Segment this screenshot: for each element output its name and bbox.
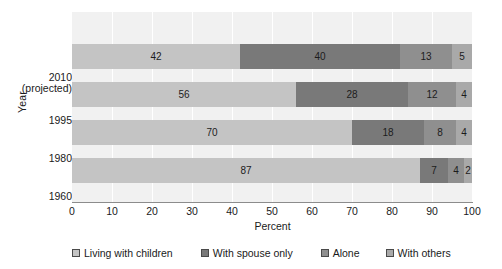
bar-value-label: 2 — [465, 165, 471, 176]
x-axis-tick-label: 30 — [178, 205, 206, 217]
bar-value-label: 70 — [206, 127, 217, 138]
bar-segment: 18 — [352, 120, 424, 145]
bar-value-label: 7 — [431, 165, 437, 176]
y-axis-tick-label: 1995 — [14, 115, 72, 127]
bar-value-label: 4 — [461, 127, 467, 138]
bar-segment: 40 — [240, 44, 400, 69]
bar-value-label: 42 — [150, 51, 161, 62]
bar-segment: 4 — [456, 120, 472, 145]
x-axis-line — [72, 202, 473, 203]
bar-row: 701884 — [72, 120, 472, 145]
x-axis-tick-label: 40 — [218, 205, 246, 217]
bar-value-label: 56 — [178, 89, 189, 100]
x-axis-title: Percent — [72, 220, 473, 232]
legend-swatch-icon — [201, 249, 209, 257]
bar-segment: 8 — [424, 120, 456, 145]
bar-row: 4240135 — [72, 44, 472, 69]
x-axis-tick-labels: 0102030405060708090100 — [72, 205, 473, 219]
bar-value-label: 4 — [453, 165, 459, 176]
bar-value-label: 28 — [346, 89, 357, 100]
x-axis-tick-label: 70 — [338, 205, 366, 217]
bar-segment: 2 — [464, 158, 472, 183]
bar-segment: 12 — [408, 82, 456, 107]
y-axis-tick-label: 2010(projected) — [14, 72, 72, 95]
bar-value-label: 4 — [461, 89, 467, 100]
legend-item[interactable]: Living with children — [72, 247, 173, 259]
legend-swatch-icon — [386, 249, 394, 257]
bar-segment: 70 — [72, 120, 352, 145]
legend-label: With others — [398, 247, 451, 259]
y-tick-main: 1995 — [49, 114, 72, 126]
bar-row: 87742 — [72, 158, 472, 183]
y-tick-main: 1960 — [49, 190, 72, 202]
stacked-bar-chart: Year 2010(projected)199519801960 4240135… — [0, 0, 502, 269]
plot-area: 4240135562812470188487742 — [72, 12, 472, 202]
bar-value-label: 87 — [240, 165, 251, 176]
bar-segment: 87 — [72, 158, 420, 183]
bar-segment: 4 — [456, 82, 472, 107]
bar-segment: 28 — [296, 82, 408, 107]
legend-swatch-icon — [321, 249, 329, 257]
legend-label: Alone — [333, 247, 360, 259]
bar-row: 5628124 — [72, 82, 472, 107]
bar-value-label: 13 — [420, 51, 431, 62]
legend-item[interactable]: With others — [386, 247, 451, 259]
y-axis-tick-label: 1980 — [14, 153, 72, 165]
legend-label: Living with children — [84, 247, 173, 259]
bar-segment: 5 — [452, 44, 472, 69]
bar-segment: 4 — [448, 158, 464, 183]
bar-segment: 42 — [72, 44, 240, 69]
y-tick-sub: (projected) — [14, 83, 72, 95]
bar-value-label: 18 — [382, 127, 393, 138]
x-axis-tick-label: 0 — [58, 205, 86, 217]
x-axis-tick-label: 50 — [258, 205, 286, 217]
y-axis-tick-label: 1960 — [14, 191, 72, 203]
bar-value-label: 8 — [437, 127, 443, 138]
y-axis-tick-labels: 2010(projected)199519801960 — [14, 38, 72, 190]
legend-item[interactable]: With spouse only — [201, 247, 293, 259]
x-axis-tick-label: 100 — [458, 205, 486, 217]
x-axis-tick-label: 90 — [418, 205, 446, 217]
bar-segment: 7 — [420, 158, 448, 183]
x-axis-tick-label: 20 — [138, 205, 166, 217]
bar-segment: 13 — [400, 44, 452, 69]
x-axis-tick-label: 80 — [378, 205, 406, 217]
y-tick-main: 2010 — [49, 71, 72, 83]
bar-segment: 56 — [72, 82, 296, 107]
legend-swatch-icon — [72, 249, 80, 257]
bar-value-label: 12 — [426, 89, 437, 100]
x-axis-tick-label: 10 — [98, 205, 126, 217]
x-axis-tick-label: 60 — [298, 205, 326, 217]
legend-label: With spouse only — [213, 247, 293, 259]
y-tick-main: 1980 — [49, 152, 72, 164]
legend-item[interactable]: Alone — [321, 247, 360, 259]
bar-value-label: 40 — [314, 51, 325, 62]
gridline — [472, 12, 473, 202]
chart-legend: Living with childrenWith spouse onlyAlon… — [72, 244, 492, 262]
bar-value-label: 5 — [459, 51, 465, 62]
